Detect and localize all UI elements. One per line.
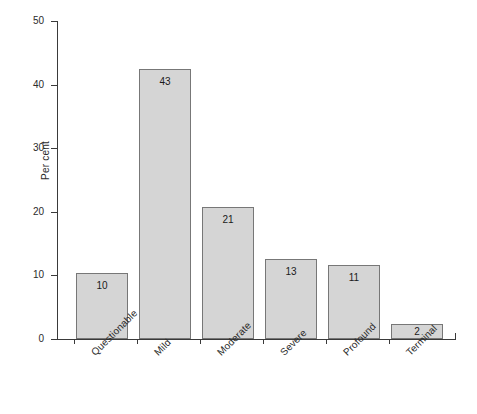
bar-value-questionable: 10 — [76, 281, 128, 291]
y-tick-label-0: 0 — [38, 334, 44, 344]
bar-value-profound: 11 — [328, 273, 380, 283]
y-tick-label-10: 10 — [33, 270, 44, 280]
y-tick-50 — [51, 21, 57, 22]
y-tick-label-20: 20 — [33, 207, 44, 217]
y-tick-10 — [51, 275, 57, 276]
bar-value-severe: 13 — [265, 267, 317, 277]
y-tick-20 — [51, 212, 57, 213]
x-axis-line — [57, 339, 456, 340]
bar-value-moderate: 21 — [202, 215, 254, 225]
y-tick-0 — [51, 339, 57, 340]
y-tick-label-30: 30 — [33, 143, 44, 153]
y-tick-label-40: 40 — [33, 80, 44, 90]
x-tick-0 — [74, 339, 75, 344]
y-tick-label-50: 50 — [33, 16, 44, 26]
x-tick-2 — [200, 339, 201, 344]
x-tick-4 — [326, 339, 327, 344]
bar-mild[interactable] — [139, 69, 191, 339]
bar-chart: Per cent 0 10 20 30 40 50 10 43 21 — [0, 0, 477, 414]
plot-area: 0 10 20 30 40 50 10 43 21 13 11 2 Quest — [0, 0, 477, 414]
x-tick-1 — [137, 339, 138, 344]
x-axis-end-tick — [455, 333, 456, 340]
bar-value-mild: 43 — [139, 77, 191, 87]
x-tick-5 — [389, 339, 390, 344]
bar-moderate[interactable] — [202, 207, 254, 339]
x-tick-3 — [263, 339, 264, 344]
y-tick-40 — [51, 85, 57, 86]
y-tick-30 — [51, 148, 57, 149]
y-axis-line — [57, 21, 58, 340]
